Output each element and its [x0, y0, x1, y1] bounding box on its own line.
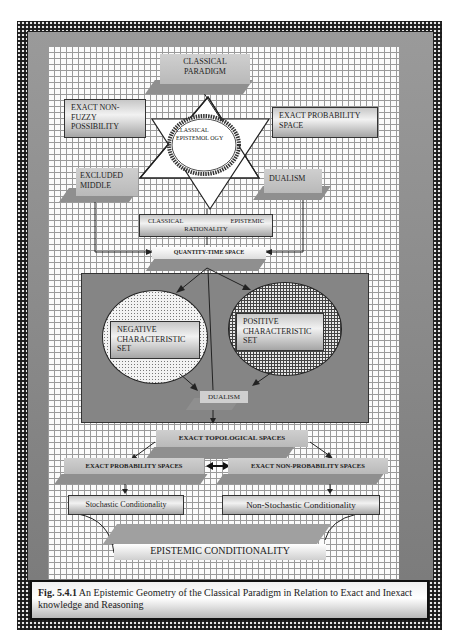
dualism-bottom-box: DUALISM — [200, 391, 248, 403]
exact-topological-spaces-label: EXACT TOPOLOGICAL SPACES — [179, 434, 285, 442]
exact-non-probability-spaces-label: EXACT NON-PROBABILITY SPACES — [251, 462, 365, 469]
epistemic-conditionality-box: EPISTEMIC CONDITIONALITY — [114, 544, 326, 560]
exact-topological-spaces-box: EXACT TOPOLOGICAL SPACES — [156, 430, 308, 447]
exact-non-probability-spaces-box: EXACT NON-PROBABILITY SPACES — [228, 458, 388, 474]
exact-non-probability-spaces-shadow — [216, 474, 383, 484]
stochastic-conditionality-box: Stochastic Conditionality — [68, 495, 184, 515]
dualism-bottom-label: DUALISM — [208, 393, 240, 401]
figure-caption-text: An Epistemic Geometry of the Classical P… — [38, 587, 412, 610]
exact-probability-spaces-box: EXACT PROBABILITY SPACES — [64, 458, 204, 474]
epistemic-conditionality-slab-top — [103, 524, 331, 544]
exact-probability-spaces-shadow — [54, 474, 207, 484]
epistemic-conditionality-label: EPISTEMIC CONDITIONALITY — [150, 545, 290, 556]
figure-caption: Fig. 5.4.1 An Epistemic Geometry of the … — [30, 580, 429, 620]
exact-probability-spaces-label: EXACT PROBABILITY SPACES — [86, 462, 183, 469]
non-stochastic-conditionality-label: Non-Stochastic Conditionality — [246, 500, 356, 510]
figure-number: Fig. 5.4.1 — [38, 587, 77, 598]
non-stochastic-conditionality-box: Non-Stochastic Conditionality — [222, 495, 380, 515]
stochastic-conditionality-label: Stochastic Conditionality — [85, 500, 166, 509]
